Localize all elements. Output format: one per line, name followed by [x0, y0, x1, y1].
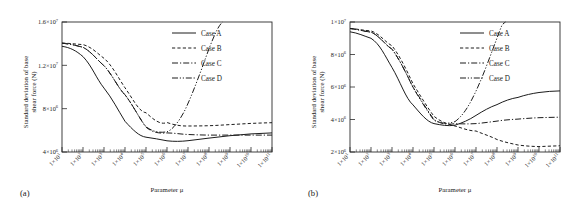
svg-text:6×106: 6×106 — [331, 83, 347, 91]
svg-text:8×106: 8×106 — [331, 50, 347, 58]
x-tick-labels-a: 1×101 1×102 1×103 1×104 1×105 1×106 1×10… — [47, 151, 273, 169]
svg-text:1×106: 1×106 — [440, 151, 456, 167]
svg-text:8×106: 8×106 — [43, 104, 59, 112]
legend-label-case-b: Case B — [489, 45, 510, 53]
svg-text:1×109: 1×109 — [215, 151, 231, 167]
svg-text:1×106: 1×106 — [152, 151, 168, 167]
legend-label-case-d: Case D — [489, 75, 510, 83]
legend-label-case-c: Case C — [201, 60, 222, 68]
curve-case-a-panel-b — [350, 32, 560, 126]
svg-text:1×102: 1×102 — [68, 151, 84, 167]
svg-text:1×104: 1×104 — [110, 151, 126, 167]
svg-text:1×108: 1×108 — [482, 151, 498, 167]
legend-label-case-a: Case A — [201, 30, 222, 38]
panel-label-b: (b) — [308, 188, 318, 198]
svg-text:1×105: 1×105 — [419, 151, 435, 167]
y-axis-title-a-line2: shear force (N) — [30, 71, 38, 112]
panel-b: 2×106 4×106 6×106 8×106 1×107 1×101 1×10… — [288, 0, 576, 208]
x-ticks-a — [62, 147, 272, 152]
y-axis-title-a-line1: Standard deviation of base — [22, 56, 29, 128]
legend-a: Case A Case B Case C Case D — [172, 30, 222, 83]
x-axis-title-a: Parameter μ — [151, 186, 184, 193]
svg-text:1×1011: 1×1011 — [256, 151, 273, 168]
legend-label-case-c: Case C — [489, 60, 510, 68]
figure-container: 4×106 8×106 1.2×107 1.6×107 1×101 1×102 … — [0, 0, 576, 208]
y-ticks-a — [62, 22, 67, 152]
panel-b-plot: 2×106 4×106 6×106 8×106 1×107 1×101 1×10… — [288, 0, 576, 208]
panel-a: 4×106 8×106 1.2×107 1.6×107 1×101 1×102 … — [0, 0, 288, 208]
panel-label-a: (a) — [20, 188, 30, 198]
x-ticks-b — [350, 147, 560, 152]
curve-case-b-panel-b — [350, 29, 560, 147]
svg-text:1×109: 1×109 — [503, 151, 519, 167]
curve-case-a-panel-a — [62, 46, 272, 141]
svg-text:1×102: 1×102 — [356, 151, 372, 167]
svg-text:1.6×107: 1.6×107 — [38, 18, 59, 26]
svg-text:1×103: 1×103 — [89, 151, 105, 167]
svg-text:1×104: 1×104 — [398, 151, 414, 167]
panel-a-plot: 4×106 8×106 1.2×107 1.6×107 1×101 1×102 … — [0, 0, 288, 208]
y-ticks-b — [350, 22, 355, 152]
curve-case-c-panel-b — [350, 29, 560, 125]
x-axis-title-b: Parameter μ — [439, 186, 472, 193]
y-axis-title-b-line1: Standard deviation of base — [310, 56, 317, 128]
svg-text:1.2×107: 1.2×107 — [38, 61, 59, 69]
legend-b: Case A Case B Case C Case D — [460, 30, 510, 83]
svg-text:1×103: 1×103 — [377, 151, 393, 167]
plot-frame-b — [350, 22, 560, 152]
svg-text:1×105: 1×105 — [131, 151, 147, 167]
curve-case-d-panel-a — [62, 22, 223, 132]
y-tick-labels-a: 4×106 8×106 1.2×107 1.6×107 — [38, 18, 59, 156]
legend-label-case-b: Case B — [201, 45, 222, 53]
svg-text:1×1010: 1×1010 — [234, 151, 252, 169]
svg-text:1×1010: 1×1010 — [522, 151, 540, 169]
y-tick-labels-b: 2×106 4×106 6×106 8×106 1×107 — [331, 18, 347, 156]
x-tick-labels-b: 1×101 1×102 1×103 1×104 1×105 1×106 1×10… — [335, 151, 561, 169]
svg-text:1×107: 1×107 — [331, 18, 347, 26]
curve-case-c-panel-a — [62, 43, 272, 135]
svg-text:1×107: 1×107 — [461, 151, 477, 167]
legend-label-case-a: Case A — [489, 30, 510, 38]
legend-label-case-d: Case D — [201, 75, 222, 83]
svg-text:4×106: 4×106 — [331, 115, 347, 123]
svg-text:1×107: 1×107 — [173, 151, 189, 167]
y-axis-title-b-line2: shear force (N) — [318, 71, 326, 112]
svg-text:1×1011: 1×1011 — [544, 151, 561, 168]
svg-text:1×108: 1×108 — [194, 151, 210, 167]
